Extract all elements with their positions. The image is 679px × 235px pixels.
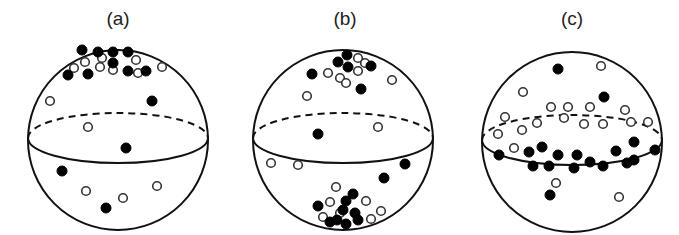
filled-particle (524, 147, 534, 157)
open-particle (564, 103, 573, 112)
open-particle (324, 69, 333, 78)
filled-particle (57, 166, 67, 176)
filled-particle (343, 62, 353, 72)
filled-particle (629, 137, 639, 147)
panel-a: (a) (28, 8, 208, 230)
filled-particle (366, 61, 376, 71)
filled-particle (333, 57, 343, 67)
panel-label: (b) (333, 8, 356, 29)
filled-particle (307, 69, 317, 79)
filled-particle (553, 64, 563, 74)
filled-particle (611, 146, 621, 156)
open-particle (518, 126, 527, 135)
open-particle (46, 97, 55, 106)
filled-particle (83, 69, 93, 79)
open-particle (599, 120, 608, 129)
sphere-outline (28, 50, 208, 230)
open-particle (627, 118, 636, 127)
filled-particle (650, 145, 660, 155)
open-particle (354, 67, 363, 76)
open-particle (267, 159, 276, 168)
open-particle (547, 103, 556, 112)
open-particle (501, 113, 510, 122)
filled-particle (599, 92, 609, 102)
filled-particle (537, 142, 547, 152)
equator-back-dashed (253, 113, 433, 138)
equator-back-dashed (28, 113, 208, 138)
filled-particle (63, 70, 73, 80)
filled-particle (108, 47, 118, 57)
panel-label: (c) (561, 8, 583, 29)
equator-front-solid (28, 138, 208, 163)
open-particle (84, 123, 93, 132)
filled-particle (341, 219, 351, 229)
open-particle (580, 120, 589, 129)
filled-particle (544, 161, 554, 171)
open-particle (81, 58, 90, 67)
open-particle (332, 183, 341, 192)
filled-particle (108, 58, 118, 68)
filled-particle (572, 150, 582, 160)
open-particle (615, 193, 624, 202)
open-particle (377, 207, 386, 216)
open-particle (153, 182, 162, 191)
figure-stage: (a)(b)(c) (0, 0, 679, 235)
open-particle (586, 103, 595, 112)
open-particle (326, 198, 335, 207)
sphere-diagram: (a)(b)(c) (0, 0, 679, 235)
filled-particle (528, 161, 538, 171)
open-particle (519, 88, 528, 97)
panel-label: (a) (106, 8, 129, 29)
filled-particle (93, 47, 103, 57)
filled-particle (101, 203, 111, 213)
filled-particle (313, 201, 323, 211)
filled-particle (313, 129, 323, 139)
open-particle (82, 187, 91, 196)
filled-particle (356, 84, 366, 94)
filled-particle (123, 66, 133, 76)
filled-particle (77, 45, 87, 55)
open-particle (552, 179, 561, 188)
filled-particle (553, 150, 563, 160)
open-particle (367, 215, 376, 224)
open-particle (510, 144, 519, 153)
open-particle (303, 92, 312, 101)
filled-particle (622, 158, 632, 168)
open-particle (342, 79, 351, 88)
filled-particle (379, 173, 389, 183)
open-particle (294, 161, 303, 170)
open-particle (132, 56, 141, 65)
open-particle (533, 119, 542, 128)
open-particle (362, 197, 371, 206)
filled-particle (353, 215, 363, 225)
filled-particle (598, 161, 608, 171)
panel-c: (c) (482, 8, 662, 232)
open-particle (374, 123, 383, 132)
open-particle (597, 62, 606, 71)
filled-particle (147, 96, 157, 106)
filled-particle (545, 190, 555, 200)
open-particle (158, 63, 167, 72)
open-particle (494, 130, 503, 139)
open-particle (621, 106, 630, 115)
filled-particle (121, 143, 131, 153)
filled-particle (338, 205, 348, 215)
filled-particle (123, 47, 133, 57)
filled-particle (400, 159, 410, 169)
filled-particle (585, 157, 595, 167)
open-particle (560, 114, 569, 123)
filled-particle (341, 196, 351, 206)
open-particle (644, 118, 653, 127)
filled-particle (342, 50, 352, 60)
filled-particle (494, 150, 504, 160)
open-particle (119, 194, 128, 203)
open-particle (96, 63, 105, 72)
open-particle (388, 76, 397, 85)
panel-b: (b) (253, 8, 433, 230)
filled-particle (141, 66, 151, 76)
filled-particle (569, 163, 579, 173)
filled-particle (325, 217, 335, 227)
